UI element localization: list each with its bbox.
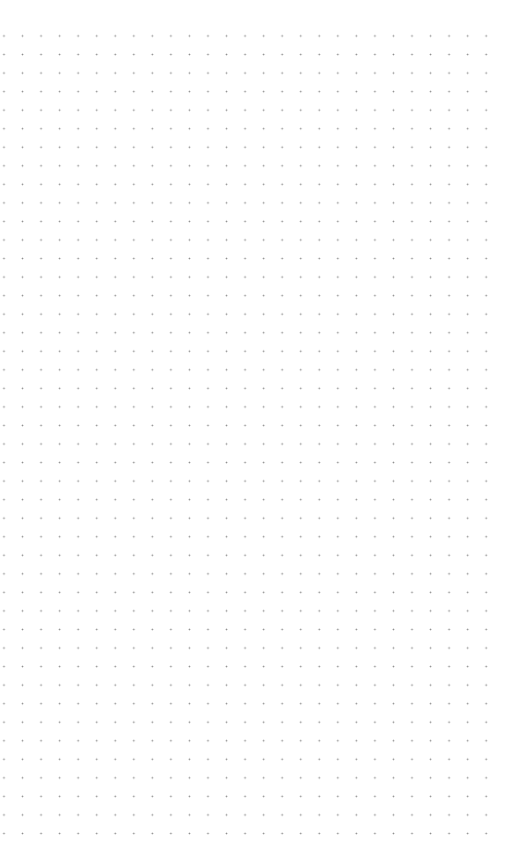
- canvas-top-margin: [0, 0, 528, 28]
- canvas-right-margin: [492, 0, 528, 865]
- canvas-bottom-margin: [0, 838, 528, 865]
- dot-grid-canvas[interactable]: [0, 0, 528, 865]
